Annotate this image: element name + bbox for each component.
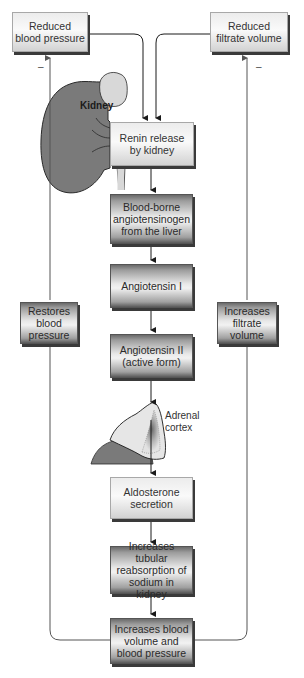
negative-feedback-sign-left: – [38, 62, 44, 72]
step-renin-release: Renin release by kidney [110, 122, 194, 166]
step-aldosterone-secretion: Aldosterone secretion [110, 477, 193, 519]
kidney-label: Kidney [80, 100, 113, 112]
step-tubular-reabsorption: Increases tubular reabsorption of sodium… [110, 546, 193, 594]
restores-blood-pressure-box: Restores blood pressure [20, 302, 78, 344]
reduced-filtrate-volume-box: Reduced filtrate volume [210, 12, 288, 52]
reduced-blood-pressure-box: Reduced blood pressure [12, 12, 88, 52]
feedback-line-right-lower [194, 345, 247, 640]
step-angiotensinogen: Blood-borne angiotensinogen from the liv… [110, 194, 193, 244]
negative-feedback-sign-right: – [256, 62, 262, 72]
increases-filtrate-volume-box: Increases filtrate volume [217, 302, 277, 344]
adrenal-cortex-illustration [91, 402, 166, 464]
arrow-reduced-filtrate-to-renin [156, 34, 210, 118]
adrenal-cortex-label: Adrenal cortex [165, 410, 199, 434]
step-angiotensin-1: Angiotensin I [110, 264, 193, 308]
feedback-line-left-lower [50, 345, 110, 640]
step-increase-blood-volume: Increases blood volume and blood pressur… [110, 618, 193, 664]
step-angiotensin-2: Angiotensin II (active form) [110, 334, 193, 378]
